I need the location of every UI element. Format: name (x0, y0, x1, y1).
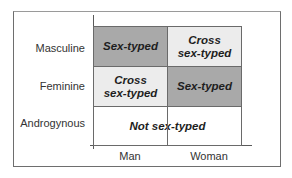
row-label-androgynous: Androgynous (20, 117, 85, 129)
cell-feminine-man: Cross sex-typed (93, 66, 168, 107)
column-divider (167, 106, 168, 146)
cell-text-line1: Cross (104, 74, 158, 87)
column-label-woman: Woman (172, 150, 246, 162)
row-label-feminine: Feminine (40, 80, 85, 92)
cell-text: Sex-typed (103, 40, 158, 53)
cell-text-line1: Cross (178, 34, 232, 47)
cell-masculine-woman: Cross sex-typed (167, 26, 242, 67)
column-label-man: Man (93, 150, 167, 162)
cell-feminine-woman: Sex-typed (167, 66, 242, 107)
cell-text: Sex-typed (177, 80, 232, 93)
cell-masculine-man: Sex-typed (93, 26, 168, 67)
cell-text-line2: sex-typed (104, 87, 158, 100)
cell-text-line2: sex-typed (178, 47, 232, 60)
row-label-masculine: Masculine (35, 42, 85, 54)
